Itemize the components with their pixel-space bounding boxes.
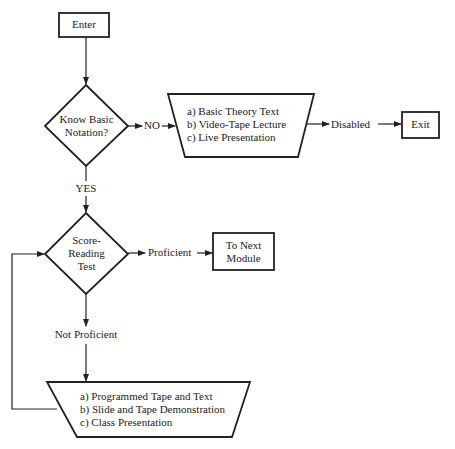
decision2-line3: Test xyxy=(45,260,128,273)
exit-label: Exit xyxy=(402,118,439,131)
edge-label-no: NO xyxy=(144,119,160,132)
decision2-line1: Score- xyxy=(45,234,128,247)
next-module-line2: Module xyxy=(213,252,274,265)
options-list-2: a) Programmed Tape and Text b) Slide and… xyxy=(80,390,225,429)
option-item: b) Video-Tape Lecture xyxy=(187,118,286,131)
options-list-1: a) Basic Theory Text b) Video-Tape Lectu… xyxy=(187,105,286,144)
edge-label-proficient: Proficient xyxy=(148,246,191,259)
next-module-line1: To Next xyxy=(213,239,274,252)
option-item: c) Live Presentation xyxy=(187,131,286,144)
enter-label: Enter xyxy=(59,18,109,31)
option-item: a) Programmed Tape and Text xyxy=(80,390,225,403)
option-item: b) Slide and Tape Demonstration xyxy=(80,403,225,416)
decision1-line2: Notation? xyxy=(45,126,128,139)
decision1-line1: Know Basic xyxy=(45,113,128,126)
edge-label-not-proficient: Not Proficient xyxy=(36,328,136,341)
flowchart-canvas xyxy=(0,0,455,449)
edge-label-yes: YES xyxy=(66,182,106,195)
option-item: a) Basic Theory Text xyxy=(187,105,286,118)
decision2-line2: Reading xyxy=(45,247,128,260)
option-item: c) Class Presentation xyxy=(80,416,225,429)
edge-label-disabled: Disabled xyxy=(331,118,370,131)
